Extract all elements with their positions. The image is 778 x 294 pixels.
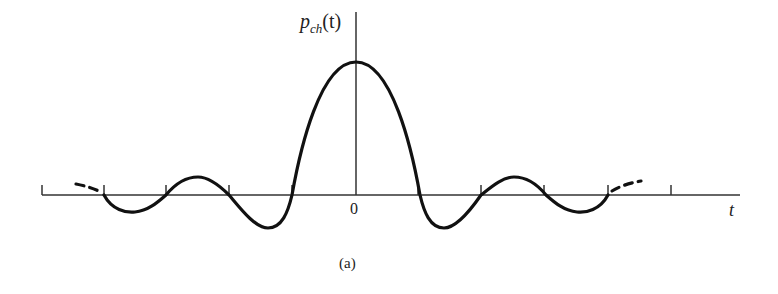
right-continuation bbox=[612, 181, 641, 191]
x-axis-label: t bbox=[729, 200, 734, 221]
y-axis-label: pch(t) bbox=[300, 10, 341, 37]
figure-caption: (a) bbox=[339, 255, 356, 272]
pulse-figure bbox=[0, 0, 778, 294]
left-continuation bbox=[76, 184, 102, 193]
origin-label: 0 bbox=[350, 200, 358, 218]
